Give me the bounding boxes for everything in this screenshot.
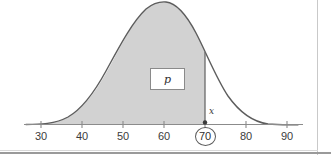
probability-label: p	[164, 74, 171, 85]
x-tick-label-50: 50	[108, 129, 138, 143]
page-frame-right-edge	[317, 0, 318, 155]
probability-label-box: p	[150, 68, 185, 90]
x-tick-label-60: 60	[149, 129, 179, 143]
page-frame-bottom-thin	[0, 150, 318, 151]
page-frame-bottom-edge	[0, 152, 331, 154]
shaded-probability-area	[30, 2, 205, 124]
x-tick-label-70: 70	[190, 129, 220, 143]
x-variable-label: x	[209, 107, 214, 116]
x-tick-label-40: 40	[67, 129, 97, 143]
x-tick-label-90: 90	[272, 129, 302, 143]
x-tick-label-30: 30	[26, 129, 56, 143]
normal-curve-figure: p x 30 40 50 60 70 80 90	[0, 0, 331, 162]
x-tick-label-80: 80	[231, 129, 261, 143]
boundary-point-marker	[203, 120, 207, 124]
